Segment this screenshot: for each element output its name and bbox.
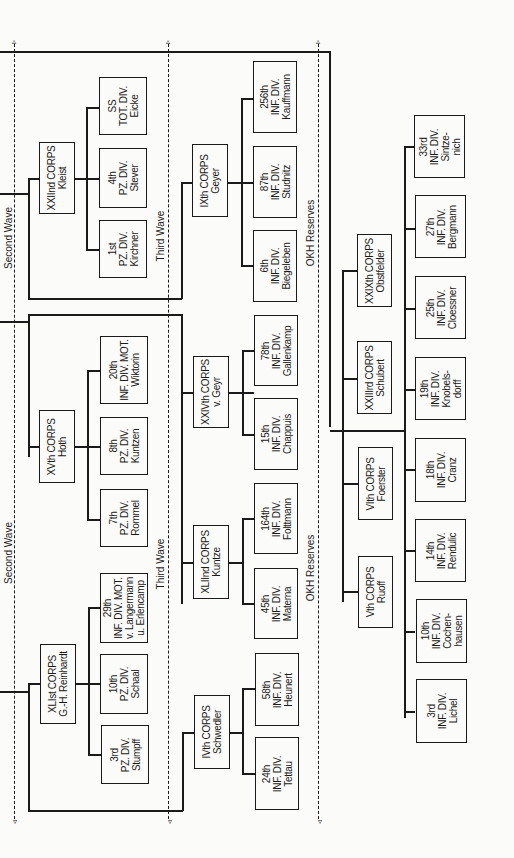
arrow-down-icon: ▿ <box>13 817 17 826</box>
arrow-up-icon: ▵ <box>12 37 16 46</box>
division-box: 1st PZ. DIV. Kirchner <box>99 220 147 278</box>
okh-reserves-label: OKH Reserves <box>305 535 316 602</box>
third-wave-label: Third Wave <box>155 539 166 590</box>
corps-box-ix: IXth CORPS Geyer <box>192 144 228 217</box>
okh-reserves-line <box>318 44 319 819</box>
division-box: 164th INF. DIV. Folttmann <box>254 483 298 554</box>
division-box: 45th INF. DIV. Materna <box>254 568 298 639</box>
division-box: 256th INF. DIV. Kauffmann <box>253 61 297 133</box>
arrow-down-icon: ▿ <box>168 817 172 826</box>
arrow-down-icon: ▿ <box>318 817 322 826</box>
division-box: 19th INF. DIV. Knobels- dorff <box>415 357 466 420</box>
corps-box-xxiv: XXIVth CORPS v. Geyr <box>193 356 229 428</box>
corps-box-xli: XLIst CORPS G.-H. Reinhardt <box>40 644 76 724</box>
third-wave-line <box>168 44 169 819</box>
corps-box-xxiii: XXIIIrd CORPS Schubert <box>357 341 392 414</box>
division-box: 20th INF. DIV. MOT. Wiktorin <box>100 336 148 404</box>
division-box: 6th INF. DIV. Biegeleben <box>253 230 297 302</box>
division-box: 25th INF. DIV. Cloessner <box>415 276 466 339</box>
division-box: 4th PZ. DIV. Stever <box>99 148 147 208</box>
division-box: 7th PZ. DIV. Rommel <box>100 489 148 547</box>
second-wave-line <box>14 44 15 819</box>
division-box: 58th INF. DIV. Heunert <box>255 653 299 726</box>
division-box: 78th INF. DIV. Gallenkamp <box>254 315 298 386</box>
division-box: 24th INF. DIV. Tettau <box>255 737 299 810</box>
second-wave-label: Second Wave <box>3 522 14 584</box>
second-wave-label: Second Wave <box>3 207 14 269</box>
division-box: 3rd INF. DIV. Lichel <box>416 679 467 743</box>
corps-box-xv: XVth CORPS Hoth <box>39 410 75 483</box>
division-box: 18th INF. DIV. Cranz <box>415 438 466 502</box>
division-box: 15th INF. DIV. Chappuis <box>254 398 298 470</box>
division-box: 87th INF. DIV. Studnitz <box>253 146 297 218</box>
corps-box-vi: VIth CORPS Foerster <box>358 447 393 520</box>
corps-box-xlii: XLIInd CORPS Kuntze <box>193 525 229 599</box>
division-box: 27th INF. DIV. Bergmann <box>415 195 466 258</box>
okh-reserves-label: OKH Reserves <box>305 200 316 267</box>
division-box: 33rd INF. DIV. Sintze- nich <box>414 115 465 178</box>
arrow-up-icon: ▵ <box>316 37 320 46</box>
third-wave-label: Third Wave <box>155 211 166 262</box>
division-box: 8th PZ. DIV. Kuntzen <box>100 417 148 475</box>
corps-box-v: Vth CORPS Ruoff <box>358 556 393 628</box>
division-box: 29th INF. DIV. MOT. v. Langermann u. Erl… <box>100 573 148 643</box>
corps-box-xxii: XXIInd CORPS Kleist <box>39 142 75 214</box>
division-box: 10th INF. DIV. Cochen- hausen <box>416 599 467 663</box>
division-box: 14th INF. DIV. Rendulic <box>415 519 466 582</box>
division-box: 10th PZ. DIV. Schaal <box>100 654 148 714</box>
corps-box-iv: IVth CORPS Schwedler <box>194 695 230 769</box>
arrow-up-icon: ▵ <box>166 37 170 46</box>
division-box: SS TOT. DIV. Eicke <box>99 77 147 135</box>
division-box: 3rd PZ. DIV. Stumpff <box>101 725 149 784</box>
corps-box-xxix: XXIXth CORPS Obstfelder <box>357 234 392 307</box>
